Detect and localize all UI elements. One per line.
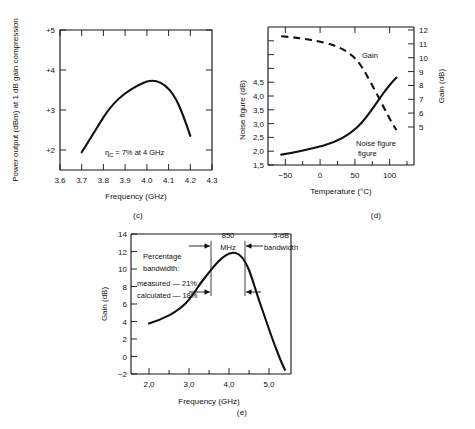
chart-e-annotations: Percentage bandwidth: measured — 21% cal… xyxy=(137,231,298,300)
chart-c-y-ticklabels: +2 +3 +4 +5 xyxy=(46,26,56,155)
chart-c-xtick-6: 4.2 xyxy=(185,176,197,185)
chart-e-ytick-8: 8 xyxy=(123,283,128,292)
chart-c-ytick-0: +2 xyxy=(46,146,56,155)
chart-e-x-ticklabels: 2,0 3,0 4,0 5,0 xyxy=(143,380,275,389)
chart-c-svg: 3.6 3.7 3.8 3.9 4.0 4.1 4.2 4.3 +2 +3 +4… xyxy=(0,0,232,214)
chart-e-ytick-12: 12 xyxy=(118,248,127,257)
chart-d-ytick-0: 1,5 xyxy=(253,161,265,170)
chart-c-series-power-output xyxy=(82,81,191,153)
chart-c-xtick-0: 3.6 xyxy=(54,176,66,185)
chart-e-ytick-neg2: −2 xyxy=(118,370,128,379)
chart-d-y2tick-6: 6 xyxy=(419,109,424,118)
chart-e-xtick-1: 3,0 xyxy=(183,380,195,389)
chart-d-left-y-ticklabels: 1,5 2,0 2,5 3,0 3,5 4,0 4,5 xyxy=(253,78,265,170)
chart-e-svg: 14 12 10 8 6 4 2 0 −2 2,0 xyxy=(95,214,385,429)
chart-d-xtick-1: 0 xyxy=(318,171,323,180)
chart-d-noise-curve-label-line1: Noise figure xyxy=(356,139,396,148)
chart-d-y2tick-11: 11 xyxy=(419,40,428,49)
chart-d-xtick-0: −50 xyxy=(279,171,293,180)
chart-c-x-ticklabels: 3.6 3.7 3.8 3.9 4.0 4.1 4.2 4.3 xyxy=(54,176,218,185)
chart-e-ytick-0: 0 xyxy=(123,353,128,362)
chart-d-ytick-3: 3,0 xyxy=(253,120,265,129)
chart-e-annot-pct-line2: bandwidth: xyxy=(143,264,179,273)
chart-d-left-y-ticks xyxy=(268,41,274,165)
chart-panel-d: 1,5 2,0 2,5 3,0 3,5 4,0 4,5 12 xyxy=(236,0,475,214)
chart-e-xtick-2: 4,0 xyxy=(223,380,235,389)
chart-c-xtick-7: 4.3 xyxy=(206,176,218,185)
chart-d-y2tick-7: 7 xyxy=(419,95,424,104)
figure-container: 3.6 3.7 3.8 3.9 4.0 4.1 4.2 4.3 +2 +3 +4… xyxy=(0,0,475,429)
chart-e-annot-pct-line1: Percentage xyxy=(143,252,181,261)
chart-d-y2tick-10: 10 xyxy=(419,54,428,63)
chart-c-xaxis-label: Frequency (GHz) xyxy=(105,192,167,201)
chart-panel-e: 14 12 10 8 6 4 2 0 −2 2,0 xyxy=(95,214,385,429)
chart-e-ytick-4: 4 xyxy=(123,318,128,327)
chart-d-y2tick-5: 5 xyxy=(419,123,424,132)
chart-e-xaxis-label: Frequency (GHz) xyxy=(178,397,240,406)
chart-d-x-ticklabels: −50 0 50 100 xyxy=(279,171,397,180)
chart-d-yaxis-label: Noise figure (dB) xyxy=(238,80,247,140)
chart-c-annotation-symbol: ηC = 7% at 4 GHz xyxy=(105,148,164,158)
chart-c-xtick-1: 3.7 xyxy=(76,176,88,185)
chart-d-ytick-6: 4,5 xyxy=(253,78,265,87)
chart-e-yaxis-label: Gain (dB) xyxy=(100,287,109,322)
chart-d-gain-curve-label: Gain xyxy=(362,51,378,60)
chart-e-x-ticks xyxy=(149,368,269,374)
chart-e-annot-3db-line1: 3-dB xyxy=(273,231,289,240)
chart-c-ytick-2: +4 xyxy=(46,66,56,75)
chart-panel-c: 3.6 3.7 3.8 3.9 4.0 4.1 4.2 4.3 +2 +3 +4… xyxy=(0,0,232,214)
chart-e-xtick-3: 5,0 xyxy=(263,380,275,389)
chart-c-yaxis-label: Power output (dBm) at 1 dB gain compress… xyxy=(11,18,20,182)
chart-d-y2tick-8: 8 xyxy=(419,81,424,90)
chart-e-ytick-14: 14 xyxy=(118,230,127,239)
chart-d-noise-curve-label-line2: figure xyxy=(358,149,377,158)
chart-e-y-ticklabels: 14 12 10 8 6 4 2 0 −2 xyxy=(118,230,128,379)
chart-c-xtick-2: 3.8 xyxy=(98,176,110,185)
chart-e-annot-center-unit: MHz xyxy=(220,243,236,252)
chart-e-y-ticks xyxy=(131,234,137,374)
subcaption-e: (e) xyxy=(222,408,262,417)
chart-d-xaxis-label: Temperature (°C) xyxy=(310,187,372,196)
chart-d-svg: 1,5 2,0 2,5 3,0 3,5 4,0 4,5 12 xyxy=(236,0,475,214)
chart-e-ytick-10: 10 xyxy=(118,265,127,274)
chart-d-series-gain xyxy=(281,36,396,130)
chart-c-xtick-4: 4.0 xyxy=(141,176,153,185)
chart-e-ytick-6: 6 xyxy=(123,300,128,309)
chart-d-ytick-5: 4,0 xyxy=(253,92,265,101)
chart-e-annot-measured: measured — 21% xyxy=(137,279,197,288)
chart-d-y2tick-12: 12 xyxy=(419,26,428,35)
chart-c-xtick-3: 3.9 xyxy=(120,176,132,185)
chart-e-xtick-0: 2,0 xyxy=(143,380,155,389)
chart-d-xtick-2: 50 xyxy=(350,171,359,180)
chart-e-ytick-2: 2 xyxy=(123,335,128,344)
chart-c-annotation: ηC = 7% at 4 GHz xyxy=(105,148,164,158)
chart-d-xtick-3: 100 xyxy=(383,171,397,180)
chart-c-ytick-1: +3 xyxy=(46,106,56,115)
chart-d-y2axis-label: Gain (dB) xyxy=(437,69,446,104)
chart-d-ytick-4: 3,5 xyxy=(253,106,265,115)
chart-d-ytick-2: 2,5 xyxy=(253,133,265,142)
chart-c-xtick-5: 4.1 xyxy=(163,176,175,185)
chart-d-right-y-ticklabels: 12 11 10 9 8 7 6 5 xyxy=(419,26,428,132)
chart-d-y2tick-9: 9 xyxy=(419,68,424,77)
chart-e-annot-center-value: 850 xyxy=(222,231,235,240)
chart-d-right-y-ticks xyxy=(408,30,414,127)
chart-d-ytick-1: 2,0 xyxy=(253,147,265,156)
chart-e-annot-3db-line2: bandwidth xyxy=(264,243,298,252)
chart-c-ytick-3: +5 xyxy=(46,26,56,35)
